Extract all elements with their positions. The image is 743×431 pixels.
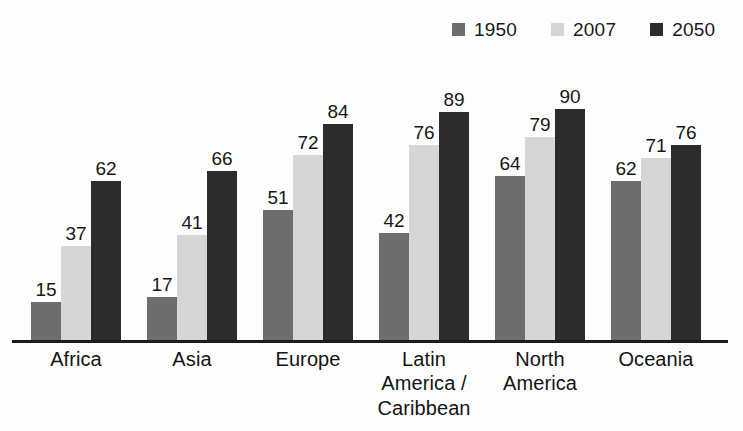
- bar-group-africa: 153762: [31, 60, 121, 341]
- bar-slot-2007-5: 71: [641, 60, 671, 341]
- bar-slot-2050-2: 84: [323, 60, 353, 341]
- x-axis-baseline: [12, 340, 728, 343]
- bar-slot-2050-5: 76: [671, 60, 701, 341]
- bar-value-label: 76: [675, 123, 696, 142]
- bar-value-label: 51: [267, 188, 288, 207]
- bar-group-latin-america-caribbean: 427689: [379, 60, 469, 341]
- bar-value-label: 64: [499, 154, 520, 173]
- bar-value-label: 37: [65, 224, 86, 243]
- bar-group-europe: 517284: [263, 60, 353, 341]
- bar-value-label: 42: [383, 211, 404, 230]
- bar-value-label: 17: [151, 275, 172, 294]
- legend-item-2050[interactable]: 2050: [650, 20, 715, 39]
- chart-legend: 195020072050: [452, 20, 715, 39]
- bar-value-label: 72: [297, 133, 318, 152]
- bar-2050[interactable]: [671, 145, 701, 341]
- bar-slot-1950-3: 42: [379, 60, 409, 341]
- bar-1950[interactable]: [379, 233, 409, 341]
- bar-slot-1950-4: 64: [495, 60, 525, 341]
- legend-swatch-2007: [551, 23, 564, 36]
- bar-1950[interactable]: [611, 181, 641, 341]
- bar-slot-1950-2: 51: [263, 60, 293, 341]
- bar-1950[interactable]: [495, 176, 525, 341]
- plot-area: 153762174166517284427689647990627176: [0, 60, 743, 341]
- bar-slot-2050-0: 62: [91, 60, 121, 341]
- legend-item-2007[interactable]: 2007: [551, 20, 616, 39]
- bar-group-asia: 174166: [147, 60, 237, 341]
- bar-2007[interactable]: [177, 235, 207, 341]
- bar-slot-1950-5: 62: [611, 60, 641, 341]
- legend-swatch-1950: [452, 23, 465, 36]
- bar-1950[interactable]: [147, 297, 177, 341]
- bar-slot-2050-1: 66: [207, 60, 237, 341]
- bar-2007[interactable]: [641, 158, 671, 341]
- bar-slot-2007-4: 79: [525, 60, 555, 341]
- bar-value-label: 79: [529, 115, 550, 134]
- bar-group-north-america: 647990: [495, 60, 585, 341]
- bar-slot-2007-3: 76: [409, 60, 439, 341]
- bar-2007[interactable]: [525, 137, 555, 341]
- bar-group-oceania: 627176: [611, 60, 701, 341]
- legend-swatch-2050: [650, 23, 663, 36]
- category-axis-labels: AfricaAsiaEuropeLatinAmerica /CaribbeanN…: [0, 347, 743, 431]
- bar-1950[interactable]: [263, 210, 293, 341]
- legend-label-2007: 2007: [573, 20, 616, 39]
- bar-2050[interactable]: [439, 112, 469, 341]
- bar-slot-2050-4: 90: [555, 60, 585, 341]
- bar-1950[interactable]: [31, 302, 61, 341]
- bar-slot-2007-0: 37: [61, 60, 91, 341]
- bar-slot-2050-3: 89: [439, 60, 469, 341]
- bar-chart: 195020072050 153762174166517284427689647…: [0, 0, 743, 431]
- bar-slot-2007-2: 72: [293, 60, 323, 341]
- bar-value-label: 71: [645, 136, 666, 155]
- bar-slot-2007-1: 41: [177, 60, 207, 341]
- bar-value-label: 15: [35, 280, 56, 299]
- bar-2050[interactable]: [555, 109, 585, 341]
- bar-value-label: 90: [559, 87, 580, 106]
- bar-value-label: 62: [95, 159, 116, 178]
- bar-2007[interactable]: [409, 145, 439, 341]
- bar-2050[interactable]: [323, 124, 353, 341]
- category-label-line: Oceania: [586, 347, 726, 371]
- bar-2007[interactable]: [61, 246, 91, 341]
- bar-value-label: 76: [413, 123, 434, 142]
- category-label-oceania: Oceania: [586, 347, 726, 371]
- legend-label-1950: 1950: [474, 20, 517, 39]
- bar-value-label: 89: [443, 90, 464, 109]
- bar-slot-1950-1: 17: [147, 60, 177, 341]
- legend-item-1950[interactable]: 1950: [452, 20, 517, 39]
- category-label-line: Caribbean: [354, 396, 494, 420]
- category-label-line: America: [470, 371, 610, 395]
- bar-value-label: 66: [211, 149, 232, 168]
- bar-2050[interactable]: [207, 171, 237, 341]
- bar-slot-1950-0: 15: [31, 60, 61, 341]
- legend-label-2050: 2050: [672, 20, 715, 39]
- bar-2050[interactable]: [91, 181, 121, 341]
- bar-value-label: 62: [615, 159, 636, 178]
- bar-value-label: 84: [327, 102, 348, 121]
- bar-2007[interactable]: [293, 155, 323, 341]
- bar-value-label: 41: [181, 213, 202, 232]
